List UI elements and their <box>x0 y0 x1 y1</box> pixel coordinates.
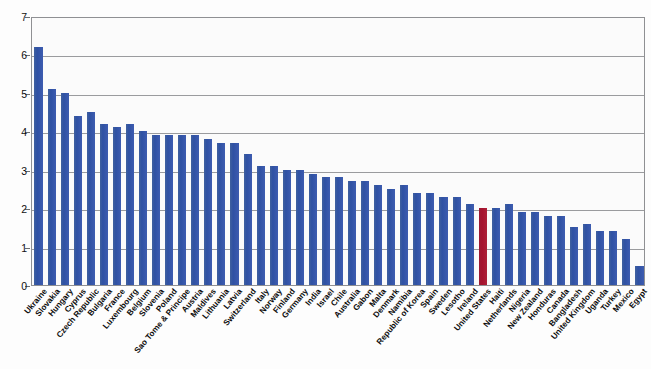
bar <box>87 112 95 285</box>
bar <box>34 47 42 285</box>
bar <box>257 166 265 285</box>
bar <box>335 177 343 285</box>
y-axis-tick-label: 2 <box>3 203 27 215</box>
plot-area <box>31 17 645 286</box>
bar <box>191 135 199 285</box>
y-axis-tick-label: 4 <box>3 126 27 138</box>
y-axis-labels: 01234567 <box>0 17 27 286</box>
y-axis-tick-label: 6 <box>3 49 27 61</box>
y-axis-tick-label: 1 <box>3 242 27 254</box>
y-axis-tick-label: 3 <box>3 165 27 177</box>
x-axis-labels: UkraineSlovakiaHungaryCyprusCzech Republ… <box>31 287 645 369</box>
y-axis-tick-label: 0 <box>3 280 27 292</box>
bar <box>100 124 108 285</box>
bars-layer <box>32 18 644 285</box>
bar <box>48 89 56 285</box>
bar <box>61 93 69 285</box>
y-axis-tick-label: 5 <box>3 88 27 100</box>
bar-chart: 01234567 UkraineSlovakiaHungaryCyprusCze… <box>0 0 651 369</box>
bar <box>217 143 225 285</box>
bar <box>348 181 356 285</box>
y-axis-tick-label: 7 <box>3 11 27 23</box>
bar <box>74 116 82 285</box>
bar <box>283 170 291 285</box>
bar <box>139 131 147 285</box>
